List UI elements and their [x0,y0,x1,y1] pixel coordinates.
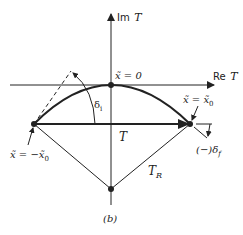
left-point-pointer [28,128,33,145]
origin-point [108,82,114,88]
imag-axis-label: Im T [117,11,143,24]
diagram: Im T Re T x̃ = 0 x̃ = x̃0 x̃ = −x̃0 T TR… [0,0,243,235]
delta-f-slope-line [194,127,207,138]
real-axis-label: Re T [213,70,239,83]
right-point-label: x̃ = x̃0 [183,94,213,108]
delta-f-arrow [208,124,210,136]
delta-i-angle-arc [73,73,95,124]
delta-i-label: δi [94,99,103,113]
origin-label: x̃ = 0 [115,70,142,81]
right-point-pointer [192,106,198,120]
left-point-label: x̃ = −x̃0 [10,149,49,163]
figure-caption: (b) [103,213,117,224]
bottom-point [108,186,114,192]
tr-vector-label: TR [148,164,162,180]
left-point [31,121,37,127]
right-point [187,121,193,127]
t-vector-label: T [119,130,128,144]
trajectory-arc [34,85,190,124]
delta-f-label: (−)δf [196,144,222,158]
